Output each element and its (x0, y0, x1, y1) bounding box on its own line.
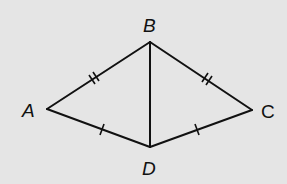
kite-figure: A B C D (0, 0, 287, 184)
label-c: C (261, 101, 275, 122)
label-a: A (21, 100, 35, 121)
label-b: B (143, 15, 156, 36)
kite-diagram: A B C D (0, 0, 287, 184)
segment-dc (150, 110, 252, 147)
segment-bc (150, 42, 252, 110)
label-d: D (142, 158, 156, 179)
segment-ab (47, 42, 150, 109)
segment-ad (47, 109, 150, 147)
